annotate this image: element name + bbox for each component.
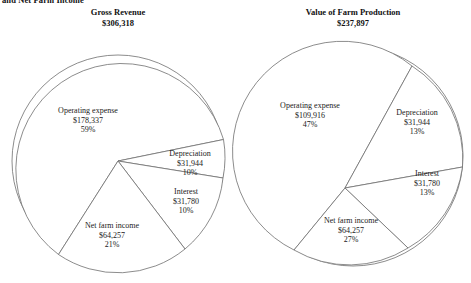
label-category: Operating expense (58, 106, 118, 116)
figure-heading-clipped: and Net Farm Income (2, 0, 84, 5)
pie-label-net-farm-income-left: Net farm income $64,257 21% (85, 221, 139, 250)
pie-label-depreciation-right: Depreciation $31,944 13% (396, 108, 437, 137)
label-percent: 10% (173, 206, 199, 216)
pie-label-net-farm-income-right: Net farm income $64,257 27% (324, 216, 378, 245)
label-percent: 13% (414, 188, 440, 198)
label-value: $31,944 (396, 117, 437, 127)
label-percent: 47% (280, 120, 340, 130)
chart-title-value-of-farm-production: Value of Farm Production $237,897 (278, 7, 428, 29)
label-value: $109,916 (280, 110, 340, 120)
label-category: Depreciation (396, 108, 437, 118)
label-category: Interest (173, 187, 199, 197)
label-value: $31,780 (414, 178, 440, 188)
label-value: $31,944 (169, 158, 210, 168)
label-percent: 21% (85, 240, 139, 250)
label-category: Operating expense (280, 101, 340, 111)
chart-total-amount: $306,318 (52, 18, 184, 29)
chart-title-text: Gross Revenue (91, 7, 145, 17)
pie-label-operating-expense-right: Operating expense $109,916 47% (280, 101, 340, 130)
pie-label-depreciation-left: Depreciation $31,944 10% (169, 149, 210, 178)
label-percent: 10% (169, 168, 210, 178)
label-value: $178,337 (58, 115, 118, 125)
chart-total-amount: $237,897 (278, 18, 428, 29)
label-category: Depreciation (169, 149, 210, 159)
label-percent: 13% (396, 127, 437, 137)
label-value: $64,257 (324, 225, 378, 235)
chart-title-text: Value of Farm Production (306, 7, 401, 17)
label-percent: 59% (58, 125, 118, 135)
label-value: $31,780 (173, 196, 199, 206)
pie-label-interest-left: Interest $31,780 10% (173, 187, 199, 216)
label-category: Net farm income (85, 221, 139, 231)
pie-label-operating-expense-left: Operating expense $178,337 59% (58, 106, 118, 135)
pie-label-interest-right: Interest $31,780 13% (414, 169, 440, 198)
label-category: Net farm income (324, 216, 378, 226)
label-percent: 27% (324, 235, 378, 245)
figure-canvas: and Net Farm Income Gross Revenue $306,3… (0, 0, 471, 283)
chart-title-gross-revenue: Gross Revenue $306,318 (52, 7, 184, 29)
label-value: $64,257 (85, 230, 139, 240)
label-category: Interest (414, 169, 440, 179)
